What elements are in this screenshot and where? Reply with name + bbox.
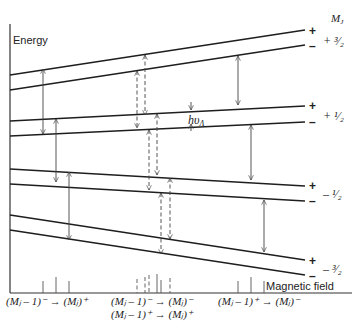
gap-label: hυΛ <box>188 113 205 128</box>
transition-label-group3: (Mⱼ – 1)⁺ → (Mⱼ)⁻ <box>218 295 301 308</box>
level-group-minus-3-2: + – – ³⁄₂ <box>10 215 342 283</box>
plus-sign: + <box>309 24 316 38</box>
level-line <box>10 184 305 201</box>
level-group-plus-3-2: + – + ³⁄₂ <box>10 24 344 90</box>
plus-sign: + <box>309 254 316 268</box>
mj-value: + ¹⁄₂ <box>323 109 344 123</box>
lambda-doubling-marker: hυΛ <box>188 102 205 131</box>
level-group-minus-1-2: + – – ¹⁄₂ <box>10 169 342 208</box>
mj-value: – ³⁄₂ <box>322 262 342 276</box>
spectrum-ticks-group3 <box>238 277 264 293</box>
transition-arrows-group3 <box>238 56 264 252</box>
minus-sign: – <box>309 39 316 53</box>
minus-sign: – <box>309 115 316 129</box>
transition-arrows-group1 <box>43 69 69 240</box>
mj-value: + ³⁄₂ <box>323 34 344 48</box>
level-line <box>10 122 305 136</box>
energy-axis-label: Energy <box>13 34 48 46</box>
level-line <box>10 169 305 186</box>
field-axis-label: Magnetic field <box>266 280 334 292</box>
transition-label-group2b: (Mⱼ – 1)⁺ → (Mⱼ)⁺ <box>111 308 194 321</box>
plus-sign: + <box>309 99 316 113</box>
minus-sign: – <box>309 269 316 283</box>
level-group-plus-1-2: + – + ¹⁄₂ <box>10 99 344 136</box>
zeeman-energy-diagram: Energy Magnetic field MJ + – + ³⁄₂ + – +… <box>0 0 354 328</box>
minus-sign: – <box>309 194 316 208</box>
transition-label-group1: (Mⱼ – 1)⁻ → (Mⱼ)⁺ <box>6 295 89 308</box>
spectrum-ticks-group1 <box>43 277 69 293</box>
plus-sign: + <box>309 179 316 193</box>
mj-value: – ¹⁄₂ <box>322 187 342 201</box>
spectrum-ticks-group2 <box>137 274 170 293</box>
transition-label-group2a: (Mⱼ – 1)⁻ → (Mⱼ)⁻ <box>111 295 194 308</box>
transition-arrows-group2 <box>137 55 170 254</box>
level-line <box>10 106 305 121</box>
mj-header: MJ <box>330 12 344 26</box>
